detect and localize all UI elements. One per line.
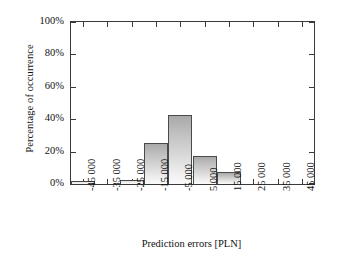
x-tick-mark-top: [156, 22, 157, 27]
x-tick-mark-top: [229, 22, 230, 27]
histogram-figure: Percentage of occurrence 0% 20% 40% 60% …: [0, 0, 352, 260]
y-tick-label: 60%: [22, 81, 64, 91]
y-tick-label: 40%: [22, 113, 64, 123]
y-tick-label: 0%: [22, 178, 64, 188]
y-tick-mark: [71, 54, 76, 55]
y-tick-label: 100%: [22, 16, 64, 26]
y-tick-mark: [71, 152, 76, 153]
x-tick-label: 45 000: [305, 135, 316, 191]
x-tick-mark-top: [107, 22, 108, 27]
y-tick-label: 80%: [22, 48, 64, 58]
y-tick-mark: [71, 87, 76, 88]
x-tick-label: -5 000: [183, 135, 194, 191]
x-tick-mark-top: [205, 22, 206, 27]
x-tick-mark-top: [253, 22, 254, 27]
x-axis-title: Prediction errors [PLN]: [70, 238, 313, 249]
y-axis-tick-labels: 0% 20% 40% 60% 80% 100%: [16, 0, 64, 260]
x-tick-mark-top: [132, 22, 133, 27]
y-tick-mark-right: [309, 54, 314, 55]
x-tick-label: -45 000: [86, 135, 97, 191]
y-tick-mark-right: [309, 87, 314, 88]
x-tick-mark-top: [278, 22, 279, 27]
x-tick-mark-top: [83, 22, 84, 27]
x-tick-label: 5 000: [208, 135, 219, 191]
x-tick-label: 15 000: [232, 135, 243, 191]
x-axis-tick-labels: -45 000 -35 000 -25 000 -15 000 -5 000 5…: [70, 183, 313, 243]
y-tick-mark: [71, 119, 76, 120]
y-tick-mark-right: [309, 22, 314, 23]
x-tick-label: 35 000: [281, 135, 292, 191]
y-tick-label: 20%: [22, 146, 64, 156]
x-tick-label: -25 000: [135, 135, 146, 191]
y-tick-mark: [71, 22, 76, 23]
x-tick-mark-top: [180, 22, 181, 27]
x-tick-mark-top: [302, 22, 303, 27]
x-tick-label: -35 000: [111, 135, 122, 191]
x-tick-label: 25 000: [256, 135, 267, 191]
y-tick-mark-right: [309, 119, 314, 120]
x-tick-label: -15 000: [159, 135, 170, 191]
